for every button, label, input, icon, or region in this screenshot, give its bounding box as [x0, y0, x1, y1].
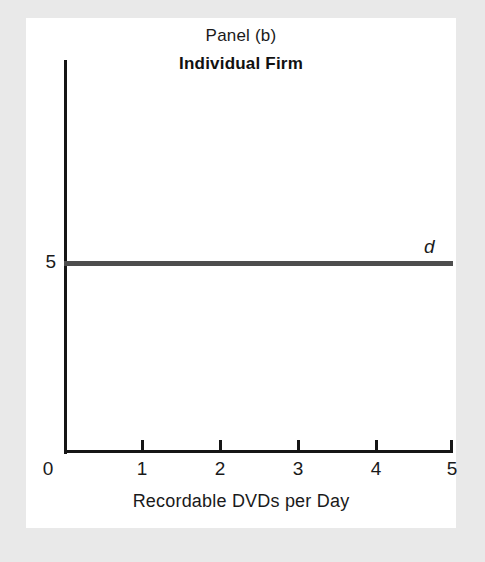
x-axis-tick-3	[297, 440, 300, 451]
x-axis-tick-5	[450, 440, 453, 451]
demand-curve-label: d	[424, 236, 435, 258]
x-axis-title: Recordable DVDs per Day	[26, 491, 456, 512]
demand-curve-line	[64, 261, 453, 266]
figure-frame: Panel (b) Individual Firm 0 1 2 3 4 5 5 …	[0, 0, 485, 562]
x-axis-tick-4	[375, 440, 378, 451]
y-axis-line	[64, 60, 67, 454]
y-axis-label-5: 5	[22, 251, 56, 273]
x-axis-line	[64, 450, 453, 453]
x-axis-label-1: 1	[122, 458, 162, 480]
plot-area: 0 1 2 3 4 5 5 d	[26, 18, 456, 528]
x-axis-label-2: 2	[200, 458, 240, 480]
x-axis-label-4: 4	[356, 458, 396, 480]
x-axis-tick-2	[219, 440, 222, 451]
x-axis-label-0: 0	[28, 458, 68, 480]
x-axis-label-5: 5	[432, 458, 472, 480]
x-axis-label-3: 3	[278, 458, 318, 480]
figure-panel: Panel (b) Individual Firm 0 1 2 3 4 5 5 …	[26, 18, 456, 528]
x-axis-tick-1	[141, 440, 144, 451]
